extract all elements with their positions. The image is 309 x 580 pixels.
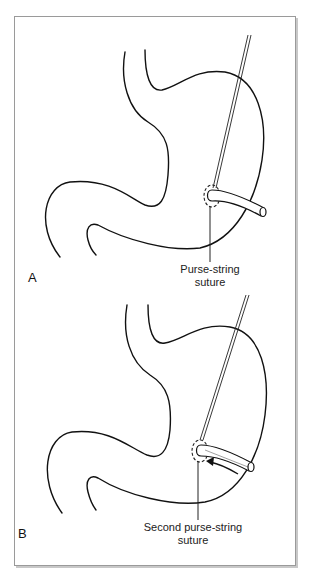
tube-a-opening (260, 208, 266, 217)
panel-b: Second purse-string suture B (18, 295, 266, 546)
panel-letter-b: B (18, 526, 27, 541)
callout-line2-b: suture (178, 534, 209, 546)
needle-b-2 (203, 295, 249, 440)
tube-b-opening (248, 463, 254, 472)
lesser-curvature-b (47, 305, 170, 513)
panel-a: Purse-string suture A (28, 35, 266, 288)
arrowhead-icon (206, 457, 214, 466)
stomach-diagram: Purse-string suture A Second purse-strin… (0, 0, 309, 580)
callout-line2-a: suture (195, 276, 226, 288)
needle-b-1 (200, 295, 246, 440)
needle-a-2 (216, 35, 251, 188)
greater-curvature-b (87, 305, 266, 510)
needle-a-1 (213, 35, 248, 188)
tube-a (208, 190, 265, 216)
panel-letter-a: A (28, 270, 37, 285)
callout-line1-a: Purse-string (180, 263, 239, 275)
callout-line1-b: Second purse-string (144, 521, 242, 533)
